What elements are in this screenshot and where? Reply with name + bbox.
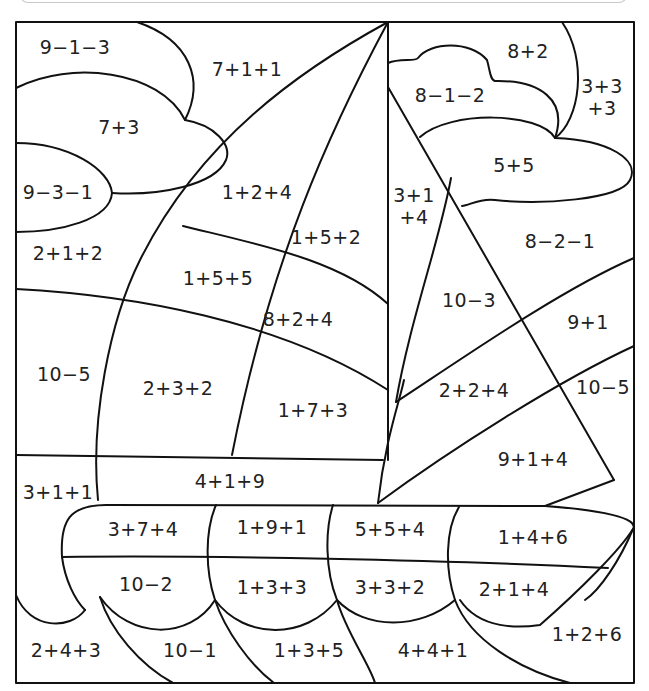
region-label[interactable]: 1+5+2 bbox=[291, 227, 362, 249]
hull-middle-line bbox=[62, 557, 608, 568]
region-label[interactable]: 9−3−1 bbox=[23, 182, 94, 204]
region-label[interactable]: 1+5+5 bbox=[183, 268, 254, 290]
sail-right-bottom-edge bbox=[545, 480, 614, 506]
hull-divider-1 bbox=[208, 505, 216, 600]
wave-scallop-2 bbox=[215, 600, 337, 630]
region-label[interactable]: 1+3+5 bbox=[274, 640, 345, 662]
region-label[interactable]: 4+1+9 bbox=[195, 471, 266, 493]
region-label[interactable]: 1+3+3 bbox=[237, 577, 308, 599]
deck-top-line bbox=[16, 455, 383, 460]
region-label[interactable]: 1+2+4 bbox=[222, 182, 293, 204]
region-label[interactable]: 2+1+2 bbox=[33, 243, 104, 265]
region-label[interactable]: 10−2 bbox=[119, 574, 173, 596]
wave-line-2 bbox=[215, 600, 274, 683]
region-label[interactable]: 10−1 bbox=[163, 640, 217, 662]
region-label[interactable]: 3+3 +3 bbox=[581, 76, 623, 120]
region-label[interactable]: 1+4+6 bbox=[498, 527, 569, 549]
region-label[interactable]: 3+3+2 bbox=[355, 577, 426, 599]
region-label[interactable]: 8+2+4 bbox=[263, 309, 334, 331]
region-label[interactable]: 3+1+1 bbox=[23, 482, 94, 504]
cloud-left-top-outline bbox=[137, 22, 194, 120]
region-label[interactable]: 1+7+3 bbox=[278, 400, 349, 422]
wave-scallop-3 bbox=[337, 600, 455, 623]
region-label[interactable]: 10−5 bbox=[37, 364, 91, 386]
region-label[interactable]: 10−5 bbox=[576, 377, 630, 399]
hull-divider-2 bbox=[327, 505, 337, 600]
sail-left-outer-edge bbox=[96, 22, 388, 500]
region-label[interactable]: 2+2+4 bbox=[439, 380, 510, 402]
region-label[interactable]: 5+5 bbox=[493, 155, 535, 177]
region-label[interactable]: 9+1+4 bbox=[498, 449, 569, 471]
sailboat-outline-drawing bbox=[0, 0, 649, 691]
wave-scallop-1 bbox=[100, 597, 215, 630]
region-label[interactable]: 3+7+4 bbox=[108, 519, 179, 541]
region-label[interactable]: 8−1−2 bbox=[415, 85, 486, 107]
sail-right-stripe-2 bbox=[378, 346, 634, 503]
region-label[interactable]: 1+9+1 bbox=[237, 517, 308, 539]
region-label[interactable]: 4+4+1 bbox=[398, 640, 469, 662]
region-label[interactable]: 8+2 bbox=[507, 41, 549, 63]
region-label[interactable]: 7+3 bbox=[98, 117, 140, 139]
region-label[interactable]: 9−1−3 bbox=[40, 37, 111, 59]
region-label[interactable]: 7+1+1 bbox=[212, 59, 283, 81]
wave-scallop-left bbox=[16, 595, 85, 624]
region-label[interactable]: 3+1 +4 bbox=[393, 185, 435, 229]
region-label[interactable]: 5+5+4 bbox=[355, 519, 426, 541]
region-label[interactable]: 2+3+2 bbox=[143, 378, 214, 400]
hull-divider-3 bbox=[448, 507, 459, 600]
region-label[interactable]: 1+2+6 bbox=[552, 624, 623, 646]
region-label[interactable]: 2+4+3 bbox=[31, 640, 102, 662]
region-label[interactable]: 2+1+4 bbox=[479, 579, 550, 601]
region-label[interactable]: 10−3 bbox=[442, 290, 496, 312]
sail-right-base bbox=[378, 380, 404, 503]
region-label[interactable]: 8−2−1 bbox=[525, 231, 596, 253]
region-label[interactable]: 9+1 bbox=[567, 312, 609, 334]
